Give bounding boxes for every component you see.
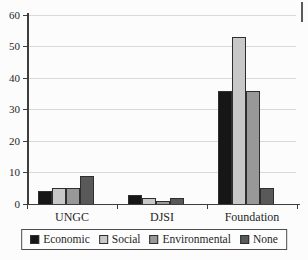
x-axis-tick-3 [297,205,298,209]
y-axis [27,13,29,205]
x-axis-tick-2 [207,205,208,209]
x-axis-label-ungc: UNGC [27,211,117,223]
bar-foundation-none [260,188,274,204]
bar-ungc-economic [38,191,52,204]
legend-label-economic: Economic [43,233,90,246]
y-axis-label-30: 30 [0,104,20,115]
bar-ungc-none [80,176,94,204]
y-axis-label-50: 50 [0,41,20,52]
x-axis-label-foundation: Foundation [207,211,297,223]
y-axis-label-40: 40 [0,73,20,84]
x-axis-label-djsi: DJSI [117,211,207,223]
legend-label-none: None [253,233,278,246]
bar-foundation-economic [218,91,232,204]
x-axis-tick-0 [27,205,28,209]
gridline-y-40 [27,78,296,79]
y-axis-label-10: 10 [0,167,20,178]
legend-swatch-none [240,235,249,244]
gridline-y-60 [27,15,296,16]
legend-label-social: Social [112,233,141,246]
legend-item-social: Social [99,233,141,246]
legend-swatch-environmental [150,235,159,244]
legend-item-none: None [240,233,278,246]
legend-swatch-social [99,235,108,244]
legend-item-environmental: Environmental [150,233,231,246]
scan-artifact-mark [301,2,303,22]
y-axis-label-60: 60 [0,10,20,21]
x-axis-tick-1 [117,205,118,209]
bar-foundation-social [232,37,246,204]
legend-swatch-economic [30,235,39,244]
bar-foundation-environmental [246,91,260,204]
y-axis-label-20: 20 [0,136,20,147]
x-axis [23,204,300,206]
bar-ungc-environmental [66,188,80,204]
bar-ungc-social [52,188,66,204]
legend-item-economic: Economic [30,233,90,246]
bar-chart: 0102030405060UNGCDJSIFoundation Economic… [0,0,308,260]
chart-legend: EconomicSocialEnvironmentalNone [21,229,287,250]
gridline-y-50 [27,46,296,47]
y-axis-label-0: 0 [0,199,20,210]
legend-label-environmental: Environmental [163,233,231,246]
